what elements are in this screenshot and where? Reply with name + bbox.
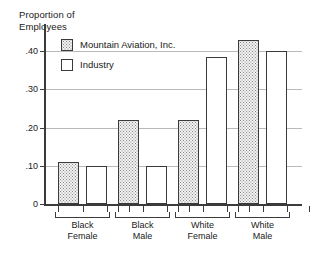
bar-chart: Proportion of Employees 0.10.20.30.40 Bl… xyxy=(0,0,312,259)
group-bracket xyxy=(175,212,230,218)
y-tick-mark xyxy=(40,128,45,129)
gridline xyxy=(46,166,302,167)
bar-company xyxy=(118,120,139,204)
bar-industry xyxy=(146,166,167,204)
bar-company xyxy=(238,40,259,204)
y-tick-label: .30 xyxy=(25,85,38,94)
legend-swatch-company-icon xyxy=(61,39,73,51)
y-tick-mark xyxy=(40,204,45,205)
bar-company xyxy=(178,120,199,204)
legend-label-industry: Industry xyxy=(80,60,114,70)
legend-label-company: Mountain Aviation, Inc. xyxy=(80,40,175,50)
group-bracket xyxy=(55,212,110,218)
bar-industry xyxy=(86,166,107,204)
y-tick-mark xyxy=(40,166,45,167)
bar-industry xyxy=(206,57,227,204)
legend-swatch-industry-icon xyxy=(61,59,73,71)
y-tick-label: .20 xyxy=(25,123,38,132)
y-tick-label: .40 xyxy=(25,47,38,56)
legend-item-industry: Industry xyxy=(61,58,114,72)
group-bracket xyxy=(235,212,290,218)
gridline xyxy=(46,89,302,90)
y-tick-label: 0 xyxy=(33,200,38,209)
bar-company xyxy=(58,162,79,204)
y-tick-label: .10 xyxy=(25,161,38,170)
gridline xyxy=(46,128,302,129)
bar-industry xyxy=(266,51,287,204)
y-tick-mark xyxy=(40,51,45,52)
group-bracket xyxy=(115,212,170,218)
x-tick-mark xyxy=(309,206,310,212)
legend-item-company: Mountain Aviation, Inc. xyxy=(61,38,175,52)
category-label: White Male xyxy=(223,220,302,242)
y-tick-mark xyxy=(40,89,45,90)
